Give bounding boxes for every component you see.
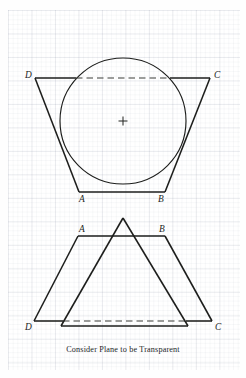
label-lower-b: B — [159, 225, 165, 234]
geometry-drawing — [0, 0, 246, 378]
upper-edge-cb — [165, 78, 210, 192]
figure-page: D C A B A B D C Consider Plane to be Tra… — [0, 0, 246, 378]
label-upper-d: D — [25, 71, 32, 80]
upper-view-group — [35, 58, 210, 192]
label-upper-c: C — [214, 71, 220, 80]
triangle-right-edge — [123, 218, 188, 326]
label-lower-a: A — [79, 225, 85, 234]
label-upper-b: B — [158, 195, 164, 204]
figure-caption: Consider Plane to be Transparent — [0, 345, 246, 354]
label-lower-d: D — [25, 323, 32, 332]
circle-center-mark — [119, 117, 128, 126]
lower-edge-bc — [165, 236, 212, 321]
lower-view-group — [34, 218, 212, 326]
triangle-left-edge — [61, 218, 123, 326]
label-upper-a: A — [79, 195, 85, 204]
upper-edge-da — [35, 78, 79, 192]
label-lower-c: C — [215, 323, 221, 332]
